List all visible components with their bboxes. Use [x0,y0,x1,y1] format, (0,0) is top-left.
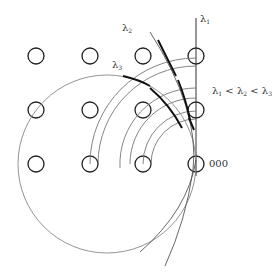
node [28,48,44,64]
bold-segments [123,40,194,130]
lambda3-label: λ3 [112,60,122,71]
diagram-canvas [0,0,276,280]
node [82,48,98,64]
node [28,156,44,172]
lambda3-curve [140,160,196,252]
large-circle [18,75,196,253]
ordering-label: λ1 < λ2 < λ3 [212,86,272,97]
node [135,48,151,64]
lambda1-label: λ1 [200,14,210,25]
node [82,102,98,118]
origin-label: 000 [209,159,228,169]
lambda2-label: λ2 [122,23,132,34]
